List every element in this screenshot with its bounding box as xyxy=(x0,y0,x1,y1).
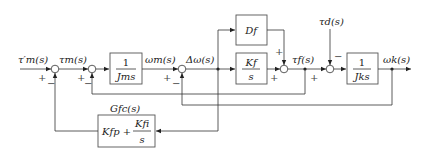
label-gfc: Gfc(s) xyxy=(110,103,140,114)
sign-sum4-in: + xyxy=(270,72,278,83)
summing-junction-3 xyxy=(178,65,186,73)
controller-num: Kfi xyxy=(134,118,149,129)
label-delta-omega: Δω(s) xyxy=(185,54,214,65)
summing-junction-1 xyxy=(51,65,59,73)
controller-proportional: Kfp + xyxy=(101,126,131,137)
label-omega-k: ωk(s) xyxy=(383,54,410,65)
summing-junction-2 xyxy=(88,65,96,73)
block-diagram: τ′m(s) + − τm(s) + − 1 Jms ωm(s) + − Δω(… xyxy=(0,0,422,156)
sign-sum3-fb: − xyxy=(172,78,180,89)
label-tau-m: τm(s) xyxy=(59,54,87,65)
sign-sum1-in: + xyxy=(38,72,46,83)
controller-den: s xyxy=(139,134,144,145)
motor-num: 1 xyxy=(123,57,129,68)
spring-den: s xyxy=(248,71,253,82)
label-tau-m-ref: τ′m(s) xyxy=(18,54,48,65)
sign-sum5-dist: − xyxy=(334,51,342,62)
sign-sum3-in: + xyxy=(163,72,171,83)
sign-sum1-fb: − xyxy=(47,78,55,89)
label-omega-m: ωm(s) xyxy=(145,54,176,65)
label-tau-f: τf(s) xyxy=(292,54,314,65)
summing-junction-4 xyxy=(280,65,288,73)
line-to-damper xyxy=(218,30,235,69)
sign-sum2-fb: − xyxy=(84,78,92,89)
label-tau-d: τd(s) xyxy=(319,16,344,27)
sign-sum4-top: + xyxy=(275,46,283,57)
motor-den: Jms xyxy=(115,71,136,82)
load-den: Jks xyxy=(352,71,369,82)
sign-sum5-in: + xyxy=(310,72,318,83)
load-num: 1 xyxy=(359,57,365,68)
summing-junction-5 xyxy=(326,65,334,73)
